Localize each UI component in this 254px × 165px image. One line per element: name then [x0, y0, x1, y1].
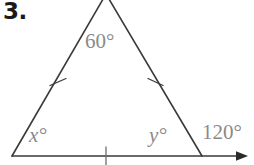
left-angle-label: x° — [29, 125, 47, 146]
right-angle-label: y° — [149, 125, 167, 146]
right-side-tick-mark — [148, 79, 163, 86]
apex-angle-label: 60° — [85, 31, 114, 52]
exterior-angle-label: 120° — [202, 122, 242, 143]
ray-arrowhead-icon — [236, 151, 248, 161]
left-side-tick-mark — [50, 79, 66, 86]
figure-canvas: 3. 60° x° y° 120° — [0, 0, 254, 165]
problem-number: 3. — [3, 0, 27, 23]
